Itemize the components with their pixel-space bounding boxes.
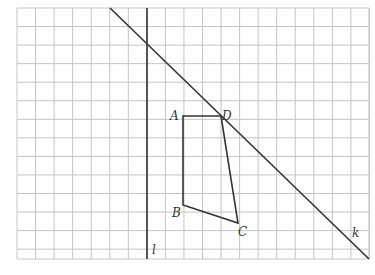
label-k: k — [352, 226, 359, 240]
label-b: B — [171, 206, 181, 220]
grid-diagram: A D B C k l — [0, 0, 375, 275]
grid-lines — [17, 8, 369, 259]
quadrilateral-abcd — [183, 116, 238, 223]
label-c: C — [238, 225, 247, 239]
label-d: D — [221, 109, 232, 123]
label-a: A — [169, 109, 179, 123]
label-l: l — [152, 243, 156, 257]
